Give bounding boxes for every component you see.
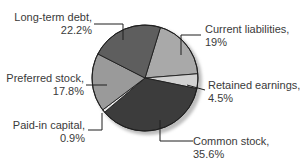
label-retained-earnings: Retained earnings, 4.5% [208,79,300,104]
label-current-liabilities: Current liabilities, 19% [205,23,289,48]
label-name: Long-term debt, [0,11,92,24]
label-preferred-stock: Preferred stock, 17.8% [0,72,84,97]
label-name: Common stock, [193,135,269,148]
label-name: Retained earnings, [208,79,300,92]
label-paid-in-capital: Paid-in capital, 0.9% [0,119,85,144]
leader-paid-in-capital [88,113,102,130]
label-value: 0.9% [0,132,85,145]
label-name: Current liabilities, [205,23,289,36]
label-common-stock: Common stock, 35.6% [193,135,269,160]
pie-slices [92,25,198,131]
label-name: Paid-in capital, [0,119,85,132]
label-value: 19% [205,36,289,49]
label-value: 4.5% [208,92,300,105]
label-long-term-debt: Long-term debt, 22.2% [0,11,92,36]
label-value: 35.6% [193,148,269,161]
label-value: 17.8% [0,85,84,98]
label-value: 22.2% [0,24,92,37]
label-name: Preferred stock, [0,72,84,85]
